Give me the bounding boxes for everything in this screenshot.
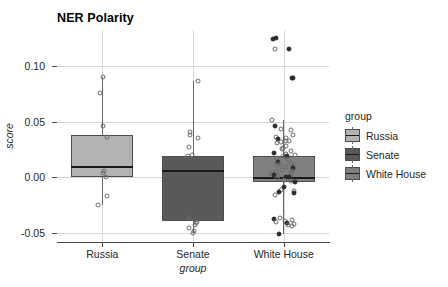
data-point xyxy=(98,90,103,95)
legend-item-russia[interactable]: Russia xyxy=(345,127,426,144)
x-tick-label: Senate xyxy=(176,248,209,260)
legend-median-mark xyxy=(346,135,359,136)
data-point xyxy=(272,124,277,129)
data-point xyxy=(105,135,110,140)
y-tick-label: 0.05 xyxy=(25,116,45,128)
data-point xyxy=(273,219,278,224)
y-axis-title: score xyxy=(3,123,15,149)
legend-median-mark xyxy=(346,154,359,155)
data-point xyxy=(287,138,292,143)
data-point xyxy=(290,224,295,229)
data-point xyxy=(274,140,279,145)
y-tick-mark xyxy=(52,233,57,234)
data-point xyxy=(104,194,109,199)
legend-label: Russia xyxy=(366,130,398,142)
data-point xyxy=(290,76,295,81)
legend-item-senate[interactable]: Senate xyxy=(345,146,426,163)
data-point xyxy=(191,231,196,236)
y-tick-mark xyxy=(52,122,57,123)
data-point xyxy=(96,203,101,208)
data-point xyxy=(193,223,198,228)
data-point xyxy=(270,36,275,41)
legend-swatch-icon xyxy=(345,129,360,142)
data-point xyxy=(187,132,192,137)
data-point xyxy=(275,163,280,168)
data-point xyxy=(272,47,277,52)
chart-title: NER Polarity xyxy=(57,11,134,25)
legend-median-mark xyxy=(346,173,359,174)
data-point xyxy=(271,150,276,155)
median-line xyxy=(162,170,224,172)
data-point xyxy=(101,74,106,79)
legend-label: Senate xyxy=(366,149,399,161)
legend-swatch-icon xyxy=(345,148,360,161)
legend-items: RussiaSenateWhite House xyxy=(345,127,426,182)
data-point xyxy=(281,177,286,182)
x-axis-title: group xyxy=(180,262,207,274)
data-point xyxy=(195,136,200,141)
legend-item-white-house[interactable]: White House xyxy=(345,165,426,182)
y-tick-mark xyxy=(52,177,57,178)
data-point xyxy=(186,154,191,159)
chart-root: NER Polarity score group 0.100.050.00-0.… xyxy=(0,0,448,287)
plot-panel xyxy=(57,30,329,242)
box-rect xyxy=(162,156,224,221)
data-point xyxy=(277,215,282,220)
data-point xyxy=(292,153,297,158)
x-tick-label: White House xyxy=(254,248,314,260)
x-tick-label: Russia xyxy=(86,248,118,260)
data-point xyxy=(280,167,285,172)
data-point xyxy=(186,145,191,150)
data-point xyxy=(287,47,292,52)
x-tick-mark xyxy=(284,242,285,247)
y-tick-label: 0.00 xyxy=(25,171,45,183)
data-point xyxy=(196,79,201,84)
data-point xyxy=(276,232,281,237)
data-point xyxy=(186,225,191,230)
data-point xyxy=(278,127,283,132)
data-point xyxy=(273,193,278,198)
data-point xyxy=(100,124,105,129)
legend-title: group xyxy=(345,110,426,122)
y-tick-label: 0.10 xyxy=(25,60,45,72)
boxplot-senate xyxy=(162,30,224,242)
data-point xyxy=(293,179,298,184)
data-point xyxy=(292,190,297,195)
legend: group RussiaSenateWhite House xyxy=(345,110,426,184)
data-point xyxy=(269,118,274,123)
data-point xyxy=(275,176,280,181)
data-point xyxy=(279,139,284,144)
x-tick-mark xyxy=(102,242,103,247)
legend-swatch-icon xyxy=(345,167,360,180)
data-point xyxy=(104,175,109,180)
boxplot-russia xyxy=(71,30,133,242)
data-point xyxy=(186,215,191,220)
y-tick-label: -0.05 xyxy=(21,227,45,239)
legend-label: White House xyxy=(366,168,426,180)
y-tick-mark xyxy=(52,66,57,67)
x-tick-mark xyxy=(193,242,194,247)
data-point xyxy=(291,132,296,137)
